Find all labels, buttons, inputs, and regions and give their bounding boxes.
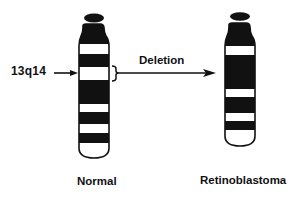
deletion-label: Deletion xyxy=(139,54,184,66)
retinoblastoma-caption: Retinoblastoma xyxy=(200,174,286,186)
brace-icon xyxy=(112,66,119,81)
satellite xyxy=(84,14,104,23)
satellite xyxy=(230,12,250,20)
locus-label: 13q14 xyxy=(11,64,46,78)
normal-caption: Normal xyxy=(77,175,117,187)
retinoblastoma-chromosome xyxy=(220,12,260,147)
normal-chromosome xyxy=(75,14,115,160)
deletion-arrow-icon xyxy=(119,69,216,77)
locus-arrow-icon xyxy=(54,70,78,76)
karyotype-diagram xyxy=(0,0,298,197)
